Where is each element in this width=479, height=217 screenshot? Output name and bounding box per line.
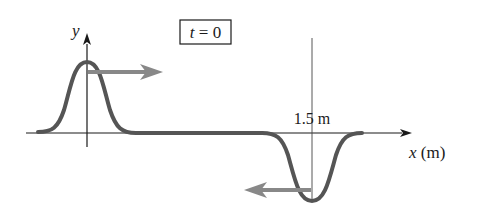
y-axis: [83, 33, 91, 147]
y-axis-arrowhead-icon: [83, 33, 91, 45]
time-label-box: t = 0: [180, 20, 231, 44]
x-axis-label: x (m): [408, 143, 445, 162]
time-value: = 0: [195, 23, 222, 42]
wave-pulse-diagram: t = 0 y 1.5 m x (m): [0, 0, 479, 217]
x-axis-unit: (m): [417, 143, 446, 162]
svg-text:t = 0: t = 0: [190, 23, 221, 42]
y-axis-label: y: [70, 21, 80, 40]
position-marker-label: 1.5 m: [294, 110, 331, 127]
